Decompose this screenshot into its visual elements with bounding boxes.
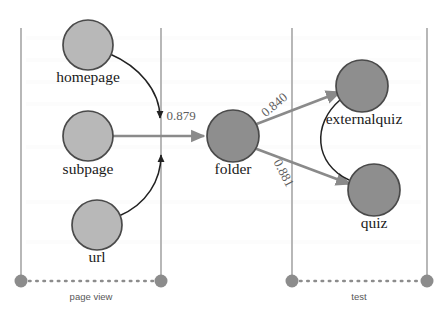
edge-url-junction[interactable]: [119, 155, 161, 216]
node-layer: homepage subpage url folder externalquiz: [56, 20, 402, 265]
node-subpage-label: subpage: [63, 160, 114, 177]
node-subpage[interactable]: subpage: [63, 111, 114, 177]
node-externalquiz[interactable]: externalquiz: [326, 60, 403, 127]
lane-dot-test-start: [286, 275, 299, 288]
edge-weight-folder-externalquiz: 0.840: [258, 89, 290, 119]
node-quiz[interactable]: quiz: [348, 164, 400, 231]
edge-weight-folder-quiz: 0.881: [270, 156, 297, 189]
node-externalquiz-circle[interactable]: [336, 60, 388, 112]
node-homepage-label: homepage: [56, 68, 120, 85]
node-url-label: url: [88, 248, 105, 265]
node-homepage[interactable]: homepage: [56, 20, 120, 85]
lane-label-test: test: [351, 291, 367, 302]
node-homepage-circle[interactable]: [63, 20, 113, 70]
lane-legend-test[interactable]: test: [286, 275, 434, 303]
lane-label-page-view: page view: [70, 291, 113, 302]
node-url-circle[interactable]: [72, 200, 122, 250]
node-folder-circle[interactable]: [207, 110, 259, 162]
edge-folder-quiz[interactable]: [254, 148, 350, 184]
node-url[interactable]: url: [72, 200, 122, 265]
lane-legend-page-view[interactable]: page view: [15, 275, 168, 303]
diagram-canvas: homepage subpage url folder externalquiz: [0, 0, 448, 315]
edge-homepage-junction[interactable]: [110, 54, 160, 118]
node-subpage-circle[interactable]: [63, 111, 113, 161]
lane-legend-layer: page view test: [15, 275, 434, 303]
edge-weight-subpage-folder: 0.879: [166, 108, 195, 123]
lane-dot-page-view-start: [15, 275, 28, 288]
node-externalquiz-label: externalquiz: [326, 110, 403, 127]
node-folder-label: folder: [214, 160, 252, 177]
lane-dot-test-end: [421, 275, 434, 288]
process-model-diagram: homepage subpage url folder externalquiz: [0, 0, 448, 315]
node-quiz-circle[interactable]: [348, 164, 400, 216]
node-folder[interactable]: folder: [207, 110, 259, 177]
node-quiz-label: quiz: [361, 214, 388, 231]
lane-dot-page-view-end: [155, 275, 168, 288]
